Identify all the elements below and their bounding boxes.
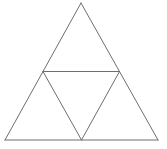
inner-left-edge	[43, 72, 82, 141]
inner-right-edge	[82, 72, 120, 141]
triangle-segments	[5, 3, 158, 140]
triangle-svg	[0, 0, 167, 149]
subdivided-triangle-diagram	[0, 0, 167, 149]
